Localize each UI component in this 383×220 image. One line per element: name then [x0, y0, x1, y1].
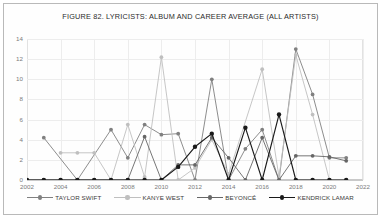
legend-label: TAYLOR SWIFT [55, 194, 101, 201]
series-line [27, 115, 346, 180]
y-tick-label: 12 [9, 55, 23, 62]
data-point [260, 178, 264, 180]
data-point [227, 156, 231, 160]
data-point [294, 154, 298, 158]
plot-area: 02468101214 2002200420062008201020122014… [27, 39, 363, 180]
data-point [310, 178, 314, 180]
y-tick-label: 8 [9, 95, 23, 102]
data-point [210, 131, 214, 135]
data-point [260, 136, 264, 140]
data-point [143, 123, 147, 127]
y-tick-label: 2 [9, 156, 23, 163]
data-point [193, 178, 197, 180]
legend-label: BEYONCÉ [225, 194, 256, 201]
data-point [42, 136, 46, 140]
series-line [44, 49, 346, 180]
data-point [311, 92, 315, 96]
data-point [176, 132, 180, 136]
chart-legend: TAYLOR SWIFTKANYE WESTBEYONCÉKENDRICK LA… [4, 194, 377, 201]
x-tick-label: 2004 [48, 183, 74, 190]
data-point [59, 151, 63, 155]
legend-item-kanye-west[interactable]: KANYE WEST [114, 194, 184, 201]
x-gridline [363, 39, 364, 180]
data-point [294, 178, 298, 180]
data-point [328, 155, 332, 159]
x-tick-label: 2014 [216, 183, 242, 190]
data-point [142, 178, 146, 180]
legend-line [284, 197, 295, 198]
data-point [260, 128, 264, 132]
legend-line [269, 197, 280, 198]
data-point [176, 178, 180, 180]
figure-container: FIGURE 82. LYRICISTS: ALBUM AND CAREER A… [3, 3, 378, 215]
series-taylor-swift [42, 47, 348, 180]
legend-line [197, 197, 208, 198]
legend-line [27, 197, 38, 198]
legend-line [42, 197, 53, 198]
data-point [92, 151, 96, 155]
data-point [126, 178, 130, 180]
data-point [160, 133, 164, 137]
legend-line [130, 197, 141, 198]
data-point [327, 178, 331, 180]
data-point [126, 123, 130, 127]
x-tick-label: 2002 [14, 183, 40, 190]
x-tick-label: 2006 [81, 183, 107, 190]
data-point [126, 156, 130, 160]
data-point [244, 147, 248, 151]
legend-line [114, 197, 125, 198]
y-tick-label: 14 [9, 35, 23, 42]
legend-item-beyonc[interactable]: BEYONCÉ [197, 194, 256, 201]
data-point [109, 128, 113, 132]
data-point [92, 178, 96, 180]
chart-title: FIGURE 82. LYRICISTS: ALBUM AND CAREER A… [4, 12, 377, 21]
data-point [76, 151, 80, 155]
y-tick-label: 0 [9, 176, 23, 183]
y-tick-label: 6 [9, 116, 23, 123]
data-point [210, 77, 214, 81]
y-tick-label: 10 [9, 75, 23, 82]
data-point [311, 113, 315, 117]
data-point [27, 178, 29, 180]
data-point [344, 178, 348, 180]
series-canvas [27, 39, 363, 180]
data-point [294, 53, 298, 57]
data-point [311, 154, 315, 158]
data-point [260, 67, 264, 71]
y-gridline [27, 180, 363, 181]
x-tick-label: 2018 [283, 183, 309, 190]
data-point [42, 178, 46, 180]
x-tick-label: 2012 [182, 183, 208, 190]
data-point [243, 125, 247, 129]
x-tick-label: 2016 [249, 183, 275, 190]
y-tick-label: 4 [9, 136, 23, 143]
data-point [294, 47, 298, 51]
legend-item-taylor-swift[interactable]: TAYLOR SWIFT [27, 194, 101, 201]
data-point [160, 55, 164, 59]
series-line [61, 55, 347, 180]
legend-line [212, 197, 223, 198]
x-tick-label: 2020 [316, 183, 342, 190]
data-point [344, 159, 348, 163]
data-point [277, 112, 281, 116]
legend-label: KANYE WEST [143, 194, 185, 201]
data-point [143, 135, 147, 139]
data-point [193, 163, 197, 167]
data-point [193, 145, 197, 149]
data-point [58, 178, 62, 180]
series-kendrick-lamar [27, 112, 348, 180]
data-point [176, 165, 180, 169]
x-tick-label: 2008 [115, 183, 141, 190]
legend-item-kendrick-lamar[interactable]: KENDRICK LAMAR [269, 194, 354, 201]
x-tick-label: 2022 [350, 183, 376, 190]
x-tick-label: 2010 [148, 183, 174, 190]
data-point [226, 178, 230, 180]
legend-label: KENDRICK LAMAR [297, 194, 353, 201]
